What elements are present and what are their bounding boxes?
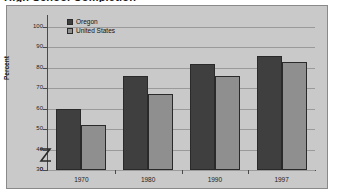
x-tick-3	[248, 170, 249, 174]
y-tick-label-50: 50	[9, 125, 43, 131]
y-tick-label-wrap-80: 80	[7, 68, 43, 69]
y-tick-label-90: 90	[9, 43, 43, 49]
y-tick-label-wrap-30: 30	[7, 170, 43, 171]
legend-swatch-oregon	[67, 19, 73, 25]
bar-oregon-1997[interactable]	[257, 56, 282, 170]
bar-united-states-1997[interactable]	[282, 62, 307, 170]
y-tick-label-60: 60	[9, 105, 43, 111]
page-title: High School Completion	[4, 0, 136, 2]
y-tick-label-100: 100	[9, 23, 43, 29]
legend-label-oregon: Oregon	[76, 17, 98, 26]
x-tick-1	[115, 170, 116, 174]
x-axis-label-1970: 1970	[51, 176, 111, 183]
chart-screenshot: High School Completion 03040506070809010…	[0, 0, 338, 195]
chart-frame: 030405060708090100 Percent 1970198019901…	[6, 5, 328, 189]
bar-united-states-1990[interactable]	[215, 76, 240, 170]
x-axis-label-1997: 1997	[252, 176, 312, 183]
y-tick-30	[43, 170, 48, 171]
bars-layer	[48, 15, 315, 170]
bar-oregon-1980[interactable]	[123, 76, 148, 170]
bar-oregon-1990[interactable]	[190, 64, 215, 170]
bar-united-states-1980[interactable]	[148, 94, 173, 170]
y-tick-label-80: 80	[9, 64, 43, 70]
y-tick-label-wrap-100: 100	[7, 27, 43, 28]
bar-united-states-1970[interactable]	[81, 125, 106, 170]
legend-swatch-united-states	[67, 28, 73, 34]
y-axis-title: Percent	[3, 56, 10, 80]
y-tick-label-wrap-60: 60	[7, 109, 43, 110]
x-axis-label-1990: 1990	[185, 176, 245, 183]
y-tick-label-wrap-70: 70	[7, 88, 43, 89]
y-tick-label-wrap-50: 50	[7, 129, 43, 130]
x-axis-label-1980: 1980	[118, 176, 178, 183]
legend-item-oregon[interactable]: Oregon	[67, 17, 115, 26]
legend-item-united-states[interactable]: United States	[67, 26, 115, 35]
bar-oregon-1970[interactable]	[56, 109, 81, 170]
y-tick-label-wrap-90: 90	[7, 47, 43, 48]
chart-legend: Oregon United States	[67, 17, 115, 35]
y-tick-label-70: 70	[9, 84, 43, 90]
legend-label-united-states: United States	[76, 26, 115, 35]
x-tick-2	[182, 170, 183, 174]
